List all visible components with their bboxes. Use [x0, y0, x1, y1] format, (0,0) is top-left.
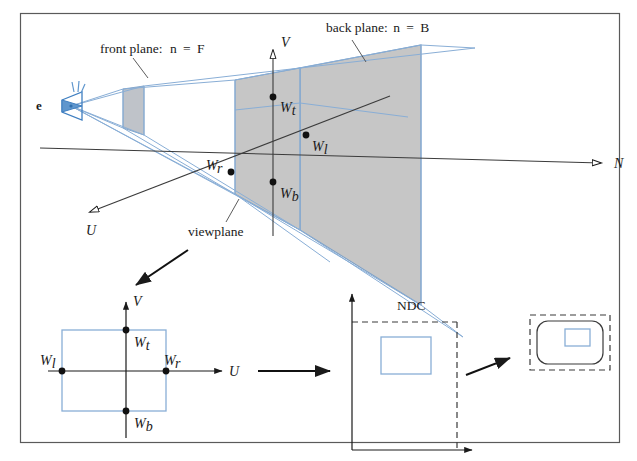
front-plane-label: front plane: n = F [100, 41, 205, 56]
point-wr-3d [228, 169, 235, 176]
axis-n-label-3d: N [613, 156, 624, 171]
eye-label: e [36, 98, 42, 113]
back-plane-label-value: B [420, 20, 429, 35]
point-wl-3d [303, 132, 310, 139]
point-wb-3d [270, 179, 277, 186]
back-plane-label-eq: = [406, 20, 414, 35]
front-plane-label-text: front plane: [100, 41, 163, 56]
ndc-label: NDC [397, 298, 426, 313]
front-plane-label-eq: = [183, 41, 191, 56]
axis-u-label-uv: U [229, 364, 240, 379]
viewplane-label: viewplane [188, 224, 243, 239]
back-plane-label-n: n [393, 20, 400, 35]
front-plane-label-value: F [197, 41, 205, 56]
axis-v-label-3d: V [281, 35, 291, 50]
back-plane-label: back plane: n = B [326, 20, 429, 35]
axis-v-label-uv: V [133, 294, 143, 309]
back-plane-label-text: back plane: [326, 20, 388, 35]
axis-u-label-3d: U [86, 223, 97, 238]
point-wt-uv [123, 327, 130, 334]
front-plane-label-n: n [170, 41, 177, 56]
point-wl-uv [59, 368, 66, 375]
point-wr-uv [163, 368, 170, 375]
point-wt-3d [270, 94, 277, 101]
point-wb-uv [123, 408, 130, 415]
figure-container: e front plane: n = F back plane: n = B v… [0, 0, 637, 461]
view-volume-diagram: e front plane: n = F back plane: n = B v… [0, 0, 637, 461]
